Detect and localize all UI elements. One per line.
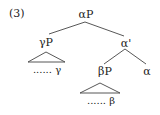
node-gammaP: γP [39,37,53,48]
terminal-beta: ...... β [87,95,115,106]
example-number: (3) [9,8,25,19]
terminal-gamma: ...... γ [33,64,61,75]
node-betaP: βP [98,66,112,77]
node-alpha-head: α [143,66,150,77]
node-alphaP: αP [79,9,94,20]
node-alpha-bar: α' [121,38,131,49]
